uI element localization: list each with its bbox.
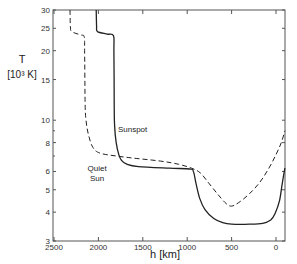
x-tick-label: 2500	[45, 243, 63, 252]
quiet-sun-label: Quiet	[88, 164, 108, 173]
y-tick-label: 6	[46, 167, 51, 176]
x-tick-label: 500	[225, 243, 239, 252]
y-axis: 345681015202530	[41, 6, 285, 246]
y-axis-title-unit: [10³ K]	[7, 69, 37, 80]
plot-frame	[53, 10, 285, 241]
y-axis-title-symbol: T	[19, 53, 26, 65]
sunspot-curve	[96, 10, 285, 224]
y-tick-label: 20	[41, 47, 50, 56]
y-tick-label: 25	[41, 24, 50, 33]
y-tick-label: 5	[46, 186, 51, 195]
y-tick-label: 30	[41, 6, 50, 15]
temperature-height-chart: 345681015202530 25002000150010005000 Sun…	[0, 0, 297, 264]
x-axis: 25002000150010005000	[45, 10, 279, 252]
quiet-sun-label: Sun	[90, 174, 104, 183]
curves	[70, 10, 285, 224]
x-axis-title: h [km]	[150, 248, 180, 260]
y-tick-label: 4	[46, 208, 51, 217]
y-tick-label: 10	[41, 116, 50, 125]
x-tick-label: 1000	[178, 243, 196, 252]
sunspot-label: Sunspot	[118, 125, 148, 134]
curve-labels: SunspotQuietSun	[88, 125, 149, 183]
x-tick-label: 0	[274, 243, 279, 252]
x-tick-label: 2000	[90, 243, 108, 252]
y-tick-label: 8	[46, 139, 51, 148]
y-tick-label: 15	[41, 76, 50, 85]
